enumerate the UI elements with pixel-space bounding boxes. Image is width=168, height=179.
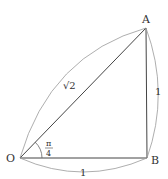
point-label-A: A bbox=[141, 13, 151, 26]
point-label-B: B bbox=[151, 154, 159, 167]
angle-denominator: 4 bbox=[46, 149, 51, 158]
angle-arc bbox=[35, 142, 42, 158]
diagram-canvas: A B O √2 1 1 π 4 bbox=[0, 0, 168, 179]
edge-label-AB: 1 bbox=[155, 86, 161, 97]
point-label-O: O bbox=[6, 152, 15, 165]
edge-label-OA: √2 bbox=[63, 80, 76, 91]
angle-numerator: π bbox=[46, 139, 51, 148]
side-AB bbox=[146, 28, 147, 158]
edge-label-OB: 1 bbox=[80, 167, 86, 178]
side-OA bbox=[20, 28, 146, 158]
triangle-diagram: A B O √2 1 1 π 4 bbox=[0, 0, 168, 179]
